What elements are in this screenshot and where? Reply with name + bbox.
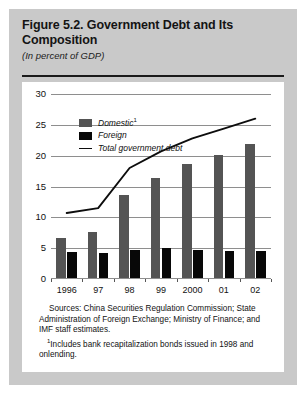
x-axis-tick-label: 2000	[182, 286, 202, 295]
y-axis-tick-label: 20	[35, 151, 46, 161]
legend-label-total: Total government debt	[98, 144, 182, 153]
footnote-note: 1Includes bank recapitalization bonds is…	[39, 336, 271, 361]
legend-swatch-total	[79, 148, 92, 149]
legend-label-domestic: Domestic1	[98, 117, 137, 127]
x-axis-tick	[177, 279, 178, 282]
y-axis-tick-label: 10	[35, 213, 46, 223]
x-axis-tick	[145, 279, 146, 282]
legend-label-foreign: Foreign	[98, 131, 127, 140]
x-axis-tick-label: 1996	[57, 286, 77, 295]
chart-panel: 051015202530 199697989920000102 Domestic…	[22, 82, 284, 372]
legend-item-domestic: Domestic1	[79, 116, 182, 129]
figure-subtitle: (In percent of GDP)	[22, 50, 284, 61]
y-axis-tick-label: 0	[41, 274, 46, 284]
page-title: Figure 5.2. Government Debt and Its Comp…	[22, 18, 284, 48]
x-axis-tick-label: 01	[219, 286, 229, 295]
legend-swatch-foreign	[79, 132, 92, 140]
x-axis-tick-label: 98	[125, 286, 135, 295]
y-axis-tick-label: 30	[35, 89, 46, 99]
x-axis	[51, 278, 271, 279]
header-divider	[22, 75, 284, 77]
sources-note: Sources: China Securities Regulation Com…	[39, 304, 271, 336]
y-axis-tick-label: 15	[35, 182, 46, 192]
x-axis-tick	[271, 279, 272, 282]
figure-header: Figure 5.2. Government Debt and Its Comp…	[22, 18, 284, 61]
figure-container: Figure 5.2. Government Debt and Its Comp…	[9, 9, 297, 385]
x-axis-tick-label: 02	[250, 286, 260, 295]
figure-notes: Sources: China Securities Regulation Com…	[39, 304, 271, 360]
y-axis-tick-label: 5	[41, 243, 46, 253]
x-axis-tick	[82, 279, 83, 282]
chart-legend: Domestic1 Foreign Total government debt	[79, 116, 182, 155]
x-axis-tick-label: 99	[156, 286, 166, 295]
x-axis-tick	[240, 279, 241, 282]
legend-item-total: Total government debt	[79, 142, 182, 155]
x-axis-tick-label: 97	[93, 286, 103, 295]
x-axis-tick	[51, 279, 52, 282]
x-axis-tick	[114, 279, 115, 282]
x-axis-tick	[208, 279, 209, 282]
legend-swatch-domestic	[79, 119, 92, 127]
legend-item-foreign: Foreign	[79, 129, 182, 142]
y-axis-tick-label: 25	[35, 120, 46, 130]
